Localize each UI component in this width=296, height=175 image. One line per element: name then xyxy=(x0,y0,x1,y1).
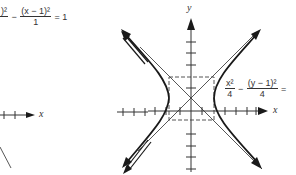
left-lower-branch-arrow xyxy=(123,140,151,174)
right-x-axis-label: x xyxy=(273,104,277,115)
left-asymptote-fragment xyxy=(0,147,11,168)
left-x-axis xyxy=(0,111,35,119)
right-eq-equals: = xyxy=(280,84,287,94)
hyperbola-right-branch xyxy=(214,29,262,169)
right-y-axis-label: y xyxy=(187,2,191,13)
left-equation: )² − (x − 1)² 1 = 1 xyxy=(0,6,68,27)
left-panel-graph xyxy=(0,31,151,174)
left-eq-equals: = 1 xyxy=(54,12,69,22)
left-eq-term1: )² xyxy=(0,6,8,27)
asymptote-1 xyxy=(140,47,262,169)
left-eq-minus: − xyxy=(11,12,18,22)
right-eq-term1: x² 4 xyxy=(225,78,235,99)
right-eq-term2: (y − 1)² 4 xyxy=(247,78,278,99)
right-eq-minus: − xyxy=(237,84,244,94)
left-eq-term2: (x − 1)² 1 xyxy=(20,6,51,27)
right-equation: x² 4 − (y − 1)² 4 = xyxy=(225,78,287,99)
left-x-axis-label: x xyxy=(39,108,43,119)
hyperbola-left-branch xyxy=(121,29,169,168)
